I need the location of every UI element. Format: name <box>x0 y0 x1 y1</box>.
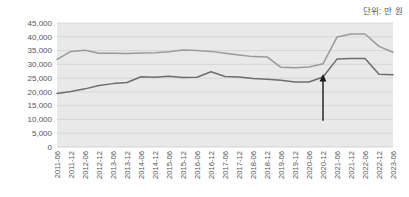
x-axis-tick-label: 2018-06 <box>249 151 258 179</box>
x-axis-tick-label: 2019-12 <box>291 151 300 179</box>
x-axis-tick-label: 2018-12 <box>263 151 272 179</box>
x-axis-tick-label: 2012-06 <box>81 151 90 179</box>
x-axis-tick-labels: 2011-062011-122012-062012-122013-062013-… <box>53 151 398 179</box>
chart-container: 단위: 만 원 05,00010,00015,00020,00025,00030… <box>0 0 409 197</box>
x-axis-tick-label: 2011-06 <box>53 151 62 178</box>
y-axis-tick-label: 40,000 <box>28 33 53 42</box>
y-axis-tick-labels: 05,00010,00015,00020,00025,00030,00035,0… <box>28 19 53 152</box>
x-axis-tick-label: 2015-12 <box>179 151 188 179</box>
x-axis-tick-label: 2021-06 <box>333 151 342 179</box>
x-axis-tick-label: 2013-06 <box>109 151 118 179</box>
y-axis-tick-label: 0 <box>48 143 53 152</box>
x-axis-tick-label: 2014-06 <box>137 151 146 179</box>
x-axis-tick-label: 2012-12 <box>95 151 104 179</box>
y-axis-tick-label: 25,000 <box>28 74 53 83</box>
y-axis-tick-label: 30,000 <box>28 60 53 69</box>
x-axis-tick-label: 2016-12 <box>207 151 216 179</box>
x-axis-tick-label: 2014-12 <box>151 151 160 179</box>
x-axis-tick-label: 2022-12 <box>375 151 384 179</box>
x-axis-tick-label: 2020-06 <box>305 151 314 179</box>
y-axis-tick-label: 15,000 <box>28 101 53 110</box>
x-axis-tick-label: 2011-12 <box>67 151 76 178</box>
x-axis-tick-label: 2020-12 <box>319 151 328 179</box>
y-axis-tick-label: 45,000 <box>28 19 53 28</box>
x-axis-tick-label: 2021-12 <box>347 151 356 179</box>
x-axis-tick-label: 2013-12 <box>123 151 132 179</box>
x-axis-tick-label: 2019-06 <box>277 151 286 179</box>
y-axis-tick-label: 10,000 <box>28 115 53 124</box>
y-axis-tick-label: 20,000 <box>28 88 53 97</box>
x-axis-tick-label: 2023-06 <box>389 151 398 179</box>
x-axis-tick-label: 2017-06 <box>221 151 230 179</box>
y-axis-tick-label: 35,000 <box>28 46 53 55</box>
y-axis-tick-label: 5,000 <box>32 129 53 138</box>
x-axis-tick-label: 2017-12 <box>235 151 244 179</box>
x-axis-tick-label: 2015-06 <box>165 151 174 179</box>
line-chart-svg: 05,00010,00015,00020,00025,00030,00035,0… <box>0 0 409 197</box>
x-axis-tick-label: 2016-06 <box>193 151 202 179</box>
x-axis-tick-label: 2022-06 <box>361 151 370 179</box>
